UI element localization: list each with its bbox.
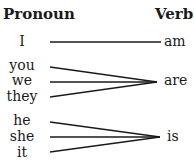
verb-is: is — [167, 129, 179, 143]
line-it-is — [50, 137, 160, 152]
verb-are: are — [164, 73, 187, 87]
line-he-is — [50, 122, 160, 137]
line-you-are — [50, 67, 157, 82]
pronoun-we: we — [0, 73, 44, 87]
pronoun-i: I — [0, 34, 44, 48]
line-they-are — [50, 82, 157, 97]
pronoun-you: you — [0, 58, 44, 72]
verb-am: am — [164, 34, 186, 48]
pronoun-he: he — [0, 113, 44, 127]
pronoun-they: they — [0, 89, 44, 103]
pronoun-she: she — [0, 129, 44, 143]
pronoun-it: it — [0, 145, 44, 159]
